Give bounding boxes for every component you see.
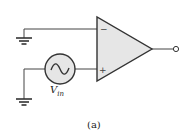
plus-sign: +: [99, 65, 107, 75]
output-terminal: [152, 46, 179, 51]
figure-caption: (a): [87, 119, 101, 130]
circuit-diagram: − +: [0, 0, 190, 138]
ground-icon: [16, 99, 32, 105]
inverting-input-wire: [24, 29, 97, 38]
source-label: Vin: [50, 84, 64, 98]
minus-sign: −: [100, 24, 108, 34]
ac-source-icon: [45, 54, 75, 84]
op-amp-icon: − +: [97, 17, 152, 81]
ground-icon: [16, 38, 32, 44]
